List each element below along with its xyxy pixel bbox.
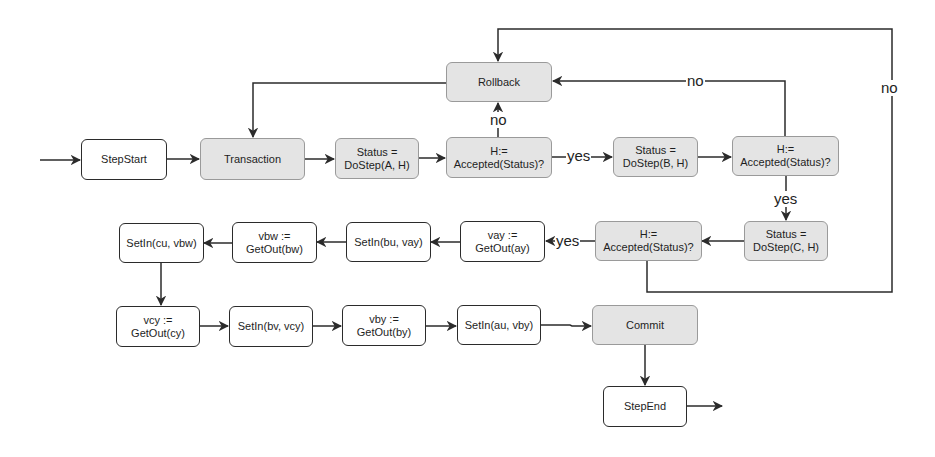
node-setin-au-vby: SetIn(au, vby) bbox=[457, 305, 541, 345]
edge-setin-au-commit bbox=[541, 325, 591, 326]
label-accepted-b-no: no bbox=[686, 73, 705, 89]
label-accepted-c-yes: yes bbox=[555, 233, 580, 249]
node-rollback: Rollback bbox=[446, 62, 552, 102]
node-dostep-a: Status = DoStep(A, H) bbox=[335, 138, 419, 179]
node-transaction: Transaction bbox=[200, 138, 305, 180]
node-getout-by: vby := GetOut(by) bbox=[342, 305, 426, 346]
node-setin-cu-vbw: SetIn(cu, vbw) bbox=[119, 223, 204, 263]
label-accepted-a-no: no bbox=[489, 112, 508, 128]
node-accepted-a: H:= Accepted(Status)? bbox=[446, 137, 552, 178]
node-setin-bv-vcy: SetIn(bv, vcy) bbox=[229, 306, 313, 347]
node-accepted-c: H:= Accepted(Status)? bbox=[595, 221, 702, 261]
node-step-end: StepEnd bbox=[603, 386, 687, 427]
node-dostep-b: Status = DoStep(B, H) bbox=[613, 137, 698, 177]
edge-accepted-b-no bbox=[553, 81, 785, 136]
node-step-start: StepStart bbox=[81, 139, 167, 180]
node-getout-bw: vbw := GetOut(bw) bbox=[232, 222, 317, 263]
edge-rollback-transaction bbox=[253, 83, 446, 137]
label-accepted-a-yes: yes bbox=[566, 148, 591, 164]
flowchart-canvas: StepStart Transaction Status = DoStep(A,… bbox=[0, 0, 935, 457]
node-accepted-b: H:= Accepted(Status)? bbox=[732, 136, 839, 176]
node-dostep-c: Status = DoStep(C, H) bbox=[744, 221, 828, 261]
label-accepted-b-yes: yes bbox=[773, 191, 798, 207]
node-setin-bu-vay: SetIn(bu, vay) bbox=[346, 222, 431, 262]
label-accepted-c-no: no bbox=[880, 80, 899, 96]
node-commit: Commit bbox=[592, 305, 698, 345]
node-getout-cy: vcy := GetOut(cy) bbox=[116, 306, 200, 347]
node-getout-ay: vay := GetOut(ay) bbox=[460, 221, 545, 262]
